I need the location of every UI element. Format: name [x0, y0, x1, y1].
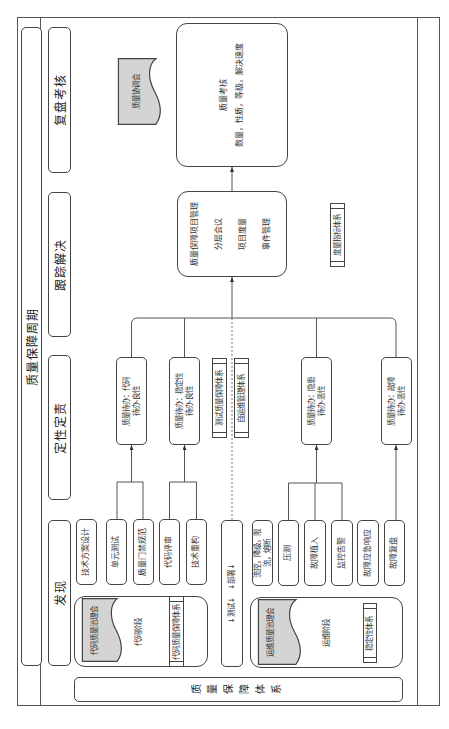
tracking-item-layered-meetings: 分层会议	[207, 192, 231, 276]
todo-code-title: 质量待办：代码	[122, 377, 132, 426]
project-management-box: 质量保障项目管理 分层会议 项目度量 事件管理	[177, 191, 287, 277]
item-tech-design: 技术方案设计	[76, 519, 97, 585]
item-quality-gate: 质量门禁规范	[133, 519, 154, 585]
item-fault-injection: 故障植入	[304, 520, 326, 586]
stability-system: 稳定性体系	[363, 603, 377, 663]
tracking-item-incident-management: 事件管理	[255, 192, 279, 276]
quality-assessment-box: 质量考核 数量，性质，等级，解决速度	[176, 23, 288, 167]
quality-system-box: 质量保障体系	[74, 677, 403, 702]
test-quality-system: 测试质量保障体系	[212, 358, 227, 438]
todo-fault: 质量待办：故障 待办-恶性	[381, 357, 412, 445]
item-postmortem: 故障复盘	[384, 520, 405, 586]
phase-review: 复盘考核	[48, 27, 71, 173]
ops-stage-label: 运维阶段	[322, 598, 334, 667]
item-unit-test: 单元测试	[106, 519, 127, 585]
phase-qualify: 定性定责	[48, 355, 71, 500]
todo-hazard-sub: 待办-恶性	[317, 386, 327, 417]
test-quality-system-label: 测试质量保障体系	[215, 370, 225, 426]
ops-quality-meeting-label: 运维质量治理会	[266, 599, 276, 665]
item-flow-control: 流控，降级，限流，熔断	[252, 520, 273, 586]
document-shape-icon	[82, 598, 122, 662]
ops-stage-container: 运维质量治理会 运维阶段 稳定性体系	[250, 597, 403, 668]
stability-system-label: 稳定性体系	[365, 616, 375, 651]
code-stage-label: 代码阶段	[134, 597, 146, 666]
quality-assessment-criteria: 数量，性质，等级，解决速度	[235, 43, 245, 147]
cycle-title: 质量保障周期	[21, 27, 42, 666]
quality-coordination-meeting-doc: 质量协调会	[118, 58, 161, 125]
quality-assurance-diagram: 质量保障周期 发现 定性定责 跟踪解决 复盘考核 质量保障体系 代码质量治理会 …	[0, 0, 449, 729]
item-code-review: 代码评审	[159, 519, 180, 585]
phase-track: 跟踪解决	[48, 192, 71, 337]
todo-fault-sub: 待办-恶性	[397, 386, 407, 417]
code-quality-system: 代码质量保障体系	[169, 596, 184, 667]
document-shape-icon	[258, 599, 301, 665]
ops-quality-meeting-doc: 运维质量治理会	[258, 599, 301, 665]
todo-fault-title: 质量待办：故障	[387, 377, 397, 426]
project-management-title: 质量保障项目管理	[183, 192, 207, 276]
todo-stability-sub: 待办-良性	[185, 386, 195, 417]
phase-discover: 发现	[48, 520, 71, 666]
tracking-item-project-metrics: 项目度量	[231, 192, 255, 276]
self-ops-system-label: 自运维管理体系	[237, 374, 247, 423]
metrics-system: 度量指标体系	[330, 203, 345, 267]
todo-hazard: 质量待办：隐患 待办-恶性	[301, 357, 332, 445]
item-refactor: 技术重构	[186, 519, 207, 585]
code-quality-meeting-doc: 代码质量治理会	[82, 598, 122, 662]
quality-system-label: 质量保障体系	[191, 682, 287, 697]
test-deploy-pipeline: ↓测试↓ ↓部署↓	[221, 520, 243, 667]
code-quality-system-label: 代码质量保障体系	[172, 604, 182, 660]
code-stage-container: 代码质量治理会 代码阶段 代码质量保障体系	[74, 596, 208, 667]
todo-code-sub: 待办-良性	[132, 386, 142, 417]
item-monitoring-alert: 监控告警	[331, 520, 353, 586]
metrics-system-label: 度量指标体系	[333, 214, 343, 256]
todo-stability-title: 质量待办：稳定性	[175, 373, 185, 429]
item-incident-response: 故障应急响应	[357, 520, 379, 586]
code-quality-meeting-label: 代码质量治理会	[90, 598, 100, 662]
quality-assessment-title: 质量考核	[219, 79, 229, 111]
self-ops-system: 自运维管理体系	[234, 358, 249, 438]
todo-code: 质量待办：代码 待办-良性	[116, 357, 147, 445]
quality-coordination-meeting-label: 质量协调会	[132, 58, 142, 125]
todo-hazard-title: 质量待办：隐患	[307, 377, 317, 426]
todo-stability: 质量待办：稳定性 待办-良性	[169, 357, 200, 445]
item-stress-test: 压测	[278, 520, 299, 586]
connector-bus	[132, 318, 397, 357]
